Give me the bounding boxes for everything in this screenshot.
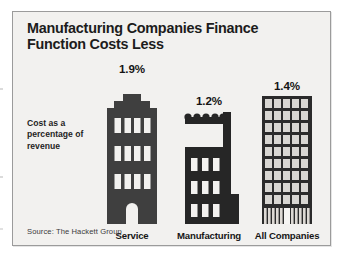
scan-artifact [0,176,3,178]
chart-panel: Manufacturing Companies Finance Function… [12,11,331,246]
factory-building-icon [173,108,245,224]
chart-figure: Manufacturing Companies Finance Function… [0,0,345,258]
source-note: Source: The Hackett Group [27,227,122,236]
chart-title: Manufacturing Companies Finance Function… [27,21,315,52]
category-label-manufacturing: Manufacturing [169,230,249,241]
data-label-all-companies: 1.4% [253,79,321,92]
y-axis-caption: Cost as a percentage of revenue [27,118,103,152]
office-tower-icon [253,94,321,224]
scan-artifact [0,88,3,90]
scan-artifact [0,228,3,230]
data-label-service: 1.9% [97,62,167,75]
plot-area: 1.9% [93,52,325,224]
data-label-manufacturing: 1.2% [173,94,245,107]
category-label-all-companies: All Companies [249,230,325,241]
apartment-building-icon [97,76,167,224]
